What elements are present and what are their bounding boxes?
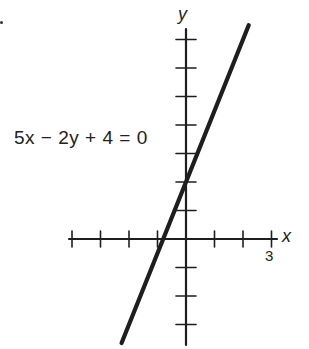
y-axis-label: y [178, 4, 187, 25]
x-axis-label: x [282, 226, 291, 247]
axes [69, 29, 277, 345]
x-tick-label-3: 3 [265, 247, 273, 264]
coordinate-plane [0, 0, 309, 349]
tick-marks [72, 40, 272, 325]
equation-label: 5x − 2y + 4 = 0 [14, 127, 148, 149]
